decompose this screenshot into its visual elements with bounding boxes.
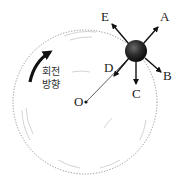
arrow-d: [114, 58, 129, 76]
label-e: E: [101, 9, 109, 24]
arrow-b: [145, 58, 161, 72]
rotation-label-line1: 회전: [42, 66, 60, 77]
label-c: C: [132, 86, 141, 101]
center-label: O: [74, 94, 83, 109]
rotation-label-line2: 방향: [42, 79, 60, 90]
label-b: B: [163, 68, 172, 83]
circular-motion-diagram: 회전 방향 O D E A B C: [0, 0, 179, 183]
arrow-a: [143, 27, 158, 44]
rotating-ball: [125, 40, 147, 62]
label-d: D: [104, 60, 113, 75]
label-a: A: [160, 9, 170, 24]
arrow-e: [112, 24, 129, 44]
